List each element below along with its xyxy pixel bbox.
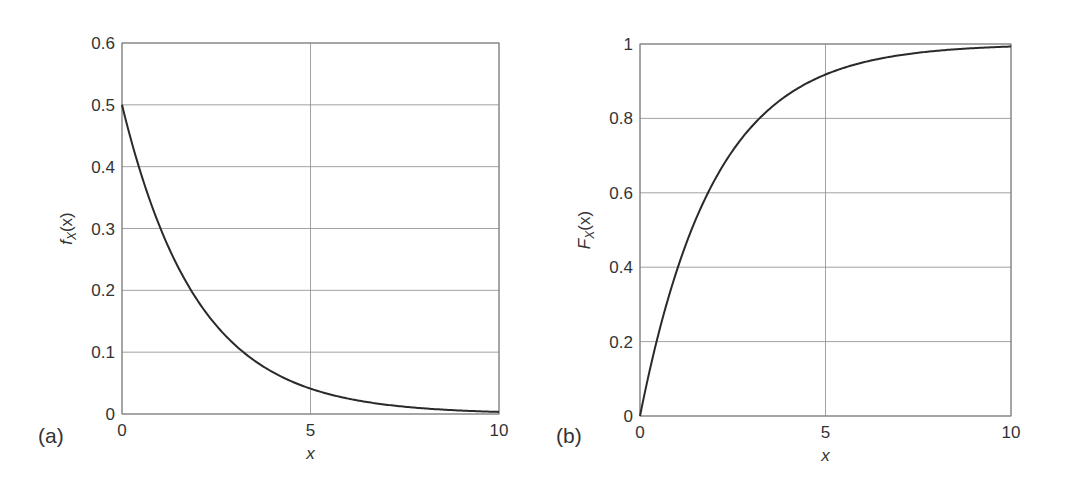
y-tick-label: 1: [624, 35, 633, 54]
y-tick-label: 0.6: [91, 34, 115, 53]
x-tick-label: 0: [635, 423, 644, 442]
y-tick-labels-b: 00.20.40.60.81: [609, 35, 633, 426]
x-tick-labels-b: 0510: [635, 423, 1020, 442]
y-tick-label: 0.5: [91, 96, 115, 115]
panel-label-b: (b): [556, 424, 582, 447]
chart-panel-b: 00.20.40.60.81 0510 x FX(x) (b): [556, 35, 1020, 465]
y-tick-label: 0.3: [91, 220, 115, 239]
y-axis-label-a: fX(x): [57, 212, 79, 245]
x-tick-label: 5: [306, 421, 315, 440]
x-axis-label-b: x: [820, 446, 830, 465]
y-tick-label: 0: [106, 405, 115, 424]
grid-lines-b: [640, 44, 1011, 416]
y-tick-label: 0.4: [609, 258, 633, 277]
y-tick-label: 0.6: [609, 184, 633, 203]
x-tick-label: 10: [1002, 423, 1021, 442]
x-tick-label: 0: [117, 421, 126, 440]
x-tick-label: 5: [821, 423, 830, 442]
x-tick-labels-a: 0510: [117, 421, 508, 440]
y-axis-label-a-tail: (x): [57, 212, 76, 232]
x-axis-label-a: x: [305, 444, 315, 463]
chart-panel-a: 00.10.20.30.40.50.6 0510 x fX(x) (a): [38, 34, 508, 463]
y-tick-label: 0.1: [91, 343, 115, 362]
y-tick-labels-a: 00.10.20.30.40.50.6: [91, 34, 115, 424]
y-axis-label-b: FX(x): [575, 211, 597, 249]
y-tick-label: 0: [624, 407, 633, 426]
y-tick-label: 0.2: [91, 281, 115, 300]
figure: 00.10.20.30.40.50.6 0510 x fX(x) (a) 00.…: [0, 0, 1067, 494]
y-tick-label: 0.4: [91, 158, 115, 177]
grid-lines-a: [122, 43, 499, 414]
y-tick-label: 0.2: [609, 333, 633, 352]
x-tick-label: 10: [490, 421, 509, 440]
panel-label-a: (a): [38, 424, 64, 447]
y-tick-label: 0.8: [609, 109, 633, 128]
y-axis-label-b-tail: (x): [575, 211, 594, 231]
